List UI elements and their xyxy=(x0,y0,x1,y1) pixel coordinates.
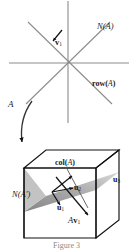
figure-caption: Figure 3 xyxy=(0,242,133,250)
column-space-label: col(A) xyxy=(55,159,75,167)
u2-label: u2 xyxy=(74,184,81,192)
u3-label: u3 xyxy=(113,176,120,184)
transformation-arrow-group xyxy=(21,101,32,142)
u1-label: u1 xyxy=(57,204,64,212)
av1-label: Av1 xyxy=(68,216,80,225)
row-space-label: row(A) xyxy=(92,80,115,88)
left-null-space-label: N(A′) xyxy=(12,190,30,199)
transformation-arrow-path xyxy=(21,101,32,142)
v1-label: v1 xyxy=(55,38,62,47)
transformation-label: A xyxy=(8,100,14,109)
null-space-label: N(A) xyxy=(97,22,114,31)
cube-right-face xyxy=(96,150,119,238)
domain-axes-group xyxy=(9,1,129,123)
